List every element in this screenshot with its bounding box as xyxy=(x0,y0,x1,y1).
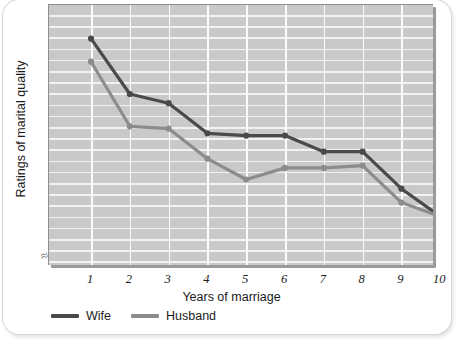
series-lines xyxy=(49,5,433,265)
legend-label: Husband xyxy=(166,309,216,323)
legend-swatch-icon xyxy=(51,314,79,318)
data-point-wife-year-6 xyxy=(282,133,288,139)
x-tick-label-2: 2 xyxy=(114,272,144,287)
data-point-wife-year-7 xyxy=(321,149,327,155)
data-point-wife-year-8 xyxy=(360,149,366,155)
x-tick-label-5: 5 xyxy=(230,272,260,287)
data-point-husband-year-1 xyxy=(88,59,94,65)
x-axis-title: Years of marriage xyxy=(3,290,457,304)
data-point-wife-year-9 xyxy=(398,186,404,192)
data-point-husband-year-6 xyxy=(282,165,288,171)
data-point-husband-year-4 xyxy=(204,156,210,162)
legend-item-husband[interactable]: Husband xyxy=(131,309,216,323)
x-tick-label-3: 3 xyxy=(153,272,183,287)
plot-area xyxy=(48,4,433,265)
data-point-husband-year-7 xyxy=(321,165,327,171)
chart-card: ≈ 12345678910 Years of marriage Ratings … xyxy=(3,0,451,334)
legend-item-wife[interactable]: Wife xyxy=(51,309,111,323)
series-line-husband xyxy=(91,62,433,217)
x-tick-label-7: 7 xyxy=(308,272,338,287)
x-tick-label-1: 1 xyxy=(75,272,105,287)
data-point-wife-year-4 xyxy=(204,130,210,136)
x-tick-label-10: 10 xyxy=(424,272,454,287)
x-tick-label-8: 8 xyxy=(347,272,377,287)
data-point-wife-year-3 xyxy=(166,100,172,106)
data-point-husband-year-9 xyxy=(398,200,404,206)
legend-label: Wife xyxy=(86,309,111,323)
data-point-wife-year-1 xyxy=(88,36,94,42)
x-tick-label-6: 6 xyxy=(269,272,299,287)
data-point-husband-year-3 xyxy=(166,126,172,132)
data-point-wife-year-2 xyxy=(127,91,133,97)
y-axis-title: Ratings of marital quality xyxy=(14,29,28,229)
x-tick-label-4: 4 xyxy=(191,272,221,287)
chart-legend: WifeHusband xyxy=(51,309,216,323)
plot-area-wrapper xyxy=(48,4,438,270)
x-tick-label-9: 9 xyxy=(385,272,415,287)
data-point-husband-year-5 xyxy=(243,176,249,182)
legend-swatch-icon xyxy=(131,314,159,318)
data-point-husband-year-8 xyxy=(360,163,366,169)
data-point-husband-year-2 xyxy=(127,123,133,129)
data-point-wife-year-5 xyxy=(243,133,249,139)
